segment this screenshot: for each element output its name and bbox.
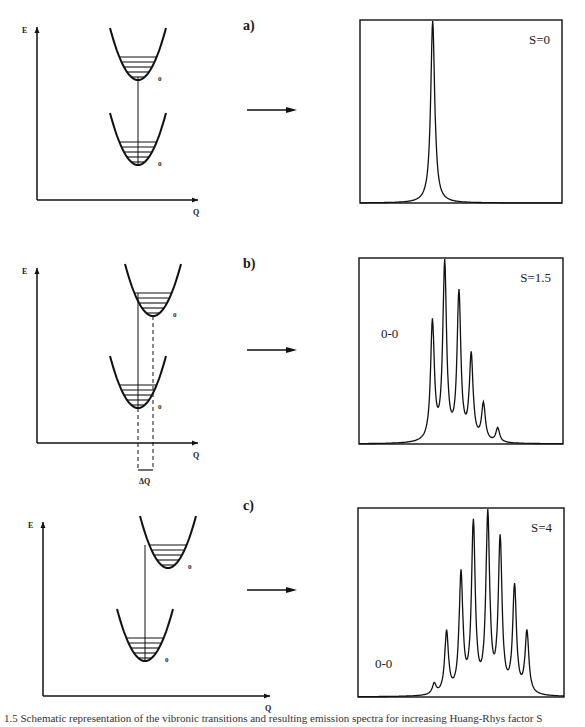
axis-arrow-icon (35, 27, 40, 33)
huang-rhys-label: S=4 (531, 520, 553, 535)
axis-label-e: E (22, 267, 27, 276)
zero-zero-label: 0-0 (381, 326, 398, 341)
potential-diagram: EQ00 (28, 516, 271, 713)
level-zero-label: 0 (158, 160, 162, 168)
axis-arrow-icon (41, 522, 46, 528)
axis-arrow-icon (192, 198, 198, 203)
axis-label-e: E (22, 26, 27, 35)
franck-condon-figure: EQ00a)S=0EQ00ΔQb)S=1.50-0EQ00c)S=40-0 (0, 0, 585, 727)
huang-rhys-label: S=1.5 (520, 270, 551, 285)
axis-label-e: E (28, 521, 33, 530)
axis-arrow-icon (35, 268, 40, 274)
axis-arrow-icon (192, 441, 198, 446)
spectrum-chart: S=0 (360, 20, 562, 203)
level-zero-label: 0 (188, 563, 192, 571)
right-arrow-icon (286, 587, 297, 593)
zero-zero-label: 0-0 (375, 656, 392, 671)
spectrum-line (360, 21, 562, 203)
panel-label: a) (243, 18, 255, 34)
potential-diagram: EQ00 (22, 26, 199, 217)
huang-rhys-label: S=0 (529, 32, 550, 47)
spectrum-chart: S=1.50-0 (359, 258, 563, 444)
potential-diagram: EQ00ΔQ (22, 264, 199, 486)
spectrum-frame (360, 20, 562, 203)
figure: EQ00a)S=0EQ00ΔQb)S=1.50-0EQ00c)S=40-0 (0, 0, 585, 727)
panel-c: EQ00c)S=40-0 (28, 498, 564, 713)
figure-caption: 1.5 Schematic representation of the vibr… (4, 712, 584, 727)
panel-a: EQ00a)S=0 (22, 18, 562, 217)
level-zero-label: 0 (158, 75, 162, 83)
axis-label-q: Q (193, 208, 199, 217)
right-arrow-icon (286, 347, 297, 353)
panel-label: c) (243, 498, 254, 514)
axis-label-q: Q (193, 451, 199, 460)
delta-q-label: ΔQ (139, 477, 150, 486)
level-zero-label: 0 (173, 311, 177, 319)
panel-label: b) (243, 256, 256, 272)
panel-b: EQ00ΔQb)S=1.50-0 (22, 256, 563, 486)
spectrum-line (359, 259, 563, 444)
level-zero-label: 0 (158, 403, 162, 411)
level-zero-label: 0 (165, 656, 169, 664)
axis-arrow-icon (264, 694, 270, 699)
spectrum-chart: S=40-0 (358, 508, 564, 697)
right-arrow-icon (286, 107, 297, 113)
